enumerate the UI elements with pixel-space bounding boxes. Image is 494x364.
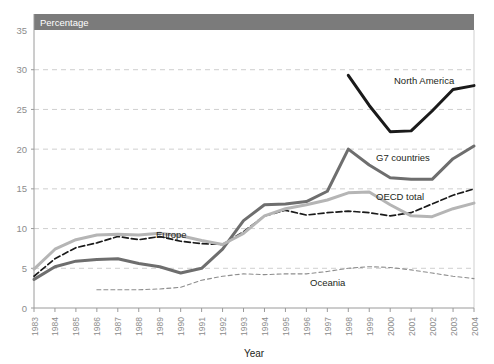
x-tick-label-2001: 2001 <box>407 317 417 336</box>
y-tick-label-35: 35 <box>16 25 27 36</box>
x-tick-label-1996: 1996 <box>302 317 312 336</box>
x-tick-label-1985: 1985 <box>71 317 81 336</box>
plot-background <box>34 30 474 308</box>
x-tick-label-1988: 1988 <box>134 317 144 336</box>
series-label-north-america: North America <box>394 75 455 86</box>
x-tick-label-1997: 1997 <box>323 317 333 336</box>
x-axis-title: Year <box>244 348 265 359</box>
x-tick-label-1984: 1984 <box>50 317 60 336</box>
x-tick-label-1989: 1989 <box>155 317 165 336</box>
y-tick-label-0: 0 <box>22 303 27 314</box>
x-tick-label-1995: 1995 <box>281 317 291 336</box>
percentage-banner-label: Percentage <box>40 17 89 28</box>
x-tick-label-1999: 1999 <box>365 317 375 336</box>
x-tick-label-1993: 1993 <box>239 317 249 336</box>
x-tick-label-2003: 2003 <box>449 317 459 336</box>
y-tick-label-5: 5 <box>22 263 27 274</box>
x-tick-label-2002: 2002 <box>428 317 438 336</box>
series-label-europe: Europe <box>156 229 187 240</box>
chart-svg: Percentage051015202530351983198419851986… <box>0 0 494 364</box>
y-tick-label-15: 15 <box>16 183 27 194</box>
x-tick-label-1992: 1992 <box>218 317 228 336</box>
series-label-oceania: Oceania <box>310 277 346 288</box>
x-tick-label-2000: 2000 <box>386 317 396 336</box>
y-tick-label-10: 10 <box>16 223 27 234</box>
x-tick-label-1983: 1983 <box>30 317 40 336</box>
x-tick-label-1986: 1986 <box>92 317 102 336</box>
y-tick-label-20: 20 <box>16 144 27 155</box>
y-tick-label-25: 25 <box>16 104 27 115</box>
x-tick-label-2004: 2004 <box>470 317 480 336</box>
line-chart: Percentage051015202530351983198419851986… <box>0 0 494 364</box>
series-label-oecd: OECD total <box>376 191 424 202</box>
x-tick-label-1994: 1994 <box>260 317 270 336</box>
percentage-banner <box>34 14 474 30</box>
x-tick-label-1991: 1991 <box>197 317 207 336</box>
series-label-g7: G7 countries <box>376 152 430 163</box>
x-tick-label-1987: 1987 <box>113 317 123 336</box>
x-tick-label-1998: 1998 <box>344 317 354 336</box>
y-tick-label-30: 30 <box>16 64 27 75</box>
x-tick-label-1990: 1990 <box>176 317 186 336</box>
